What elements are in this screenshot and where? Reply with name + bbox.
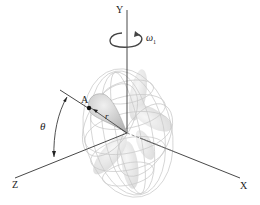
omega-subscript: 1	[153, 39, 156, 45]
point-a-label: A	[81, 95, 88, 105]
x-axis-label: X	[240, 181, 247, 191]
radius-label: r	[105, 112, 109, 121]
theta-arrow-top	[63, 97, 67, 102]
theta-arc	[54, 97, 67, 157]
omega-label: ω1	[146, 33, 156, 45]
omega-symbol: ω	[146, 32, 153, 43]
z-axis-label: Z	[12, 180, 18, 190]
rotation-arrow-icon	[110, 31, 142, 47]
diagram-canvas: Y ω1 A r θ Z X	[0, 0, 260, 205]
y-axis-label: Y	[116, 5, 123, 15]
point-a	[87, 106, 91, 110]
diagram-svg	[0, 0, 260, 205]
theta-label: θ	[40, 121, 45, 132]
theta-arrow-bottom	[52, 151, 56, 157]
